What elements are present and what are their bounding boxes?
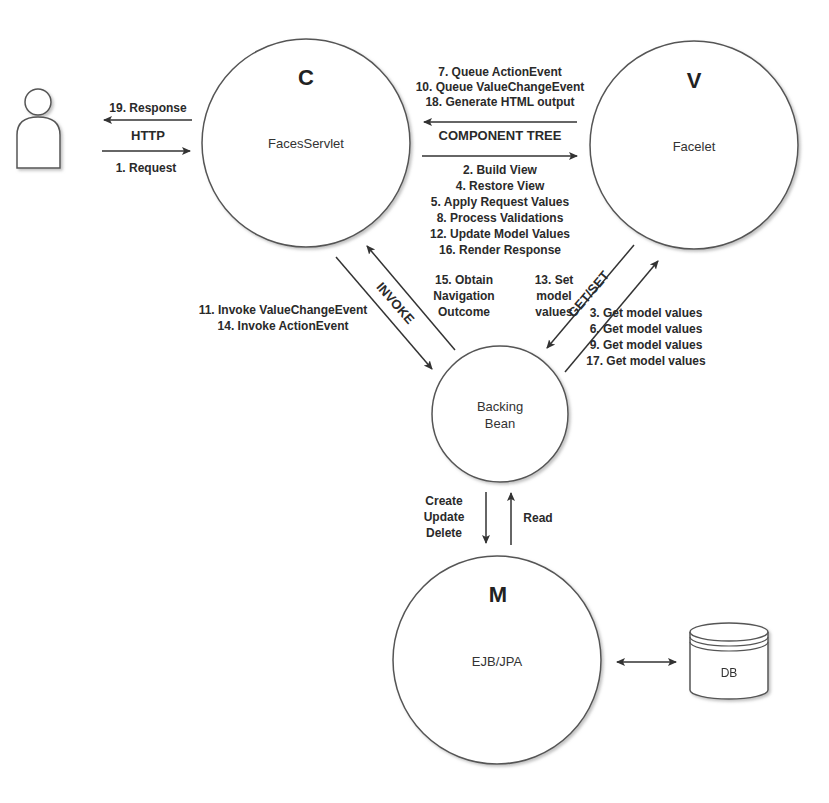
svg-text:13. Set: 13. Set xyxy=(535,273,574,287)
view-label: Facelet xyxy=(673,139,716,154)
controller-label: FacesServlet xyxy=(268,136,344,151)
mvc-diagram: 19. Response HTTP 1. Request C FacesServ… xyxy=(0,0,829,803)
svg-text:15. Obtain: 15. Obtain xyxy=(435,273,493,287)
svg-text:9. Get model values: 9. Get model values xyxy=(590,338,703,352)
controller-node: C FacesServlet xyxy=(202,39,410,247)
invoke-edge: INVOKE 11. Invoke ValueChangeEvent 14. I… xyxy=(199,246,495,369)
svg-text:Outcome: Outcome xyxy=(438,305,490,319)
svg-text:values: values xyxy=(535,305,573,319)
controller-letter: C xyxy=(298,65,314,90)
svg-text:3. Get model values: 3. Get model values xyxy=(590,306,703,320)
model-node: M EJB/JPA xyxy=(393,556,601,764)
bean-model-edge: Create Update Delete Read xyxy=(424,492,553,545)
svg-text:11. Invoke ValueChangeEvent: 11. Invoke ValueChangeEvent xyxy=(199,303,368,317)
backing-bean-node: Backing Bean xyxy=(432,346,568,482)
svg-text:Read: Read xyxy=(523,511,552,525)
get-set-edge: GET/SET 13. Set model values 3. Get mode… xyxy=(535,245,706,372)
http-label: HTTP xyxy=(131,128,165,143)
svg-text:5. Apply Request Values: 5. Apply Request Values xyxy=(431,195,570,209)
model-letter: M xyxy=(489,582,507,607)
svg-text:8. Process Validations: 8. Process Validations xyxy=(437,211,564,225)
svg-text:17. Get model values: 17. Get model values xyxy=(586,354,706,368)
svg-text:12. Update Model Values: 12. Update Model Values xyxy=(430,227,570,241)
database-icon: DB xyxy=(690,623,768,699)
svg-text:model: model xyxy=(536,289,571,303)
component-tree-label: COMPONENT TREE xyxy=(439,128,562,143)
request-label: 1. Request xyxy=(116,161,177,175)
svg-text:2. Build View: 2. Build View xyxy=(463,163,537,177)
svg-text:Create: Create xyxy=(425,494,463,508)
svg-text:Navigation: Navigation xyxy=(433,289,494,303)
component-tree-edge: 7. Queue ActionEvent 10. Queue ValueChan… xyxy=(416,65,585,257)
view-node: V Facelet xyxy=(590,41,798,249)
http-edge: 19. Response HTTP 1. Request xyxy=(102,101,192,175)
response-label: 19. Response xyxy=(109,101,187,115)
svg-text:6. Get model values: 6. Get model values xyxy=(590,322,703,336)
invoke-label: INVOKE xyxy=(373,279,417,327)
view-letter: V xyxy=(687,68,702,93)
svg-text:Update: Update xyxy=(424,510,465,524)
user-icon xyxy=(17,89,60,168)
db-label: DB xyxy=(721,666,738,680)
svg-text:Bean: Bean xyxy=(485,416,515,431)
svg-text:16. Render Response: 16. Render Response xyxy=(439,243,561,257)
svg-text:10. Queue ValueChangeEvent: 10. Queue ValueChangeEvent xyxy=(416,80,585,94)
svg-text:18. Generate HTML output: 18. Generate HTML output xyxy=(425,95,574,109)
svg-text:14. Invoke ActionEvent: 14. Invoke ActionEvent xyxy=(218,319,349,333)
svg-text:Backing: Backing xyxy=(477,399,523,414)
model-label: EJB/JPA xyxy=(472,654,523,669)
svg-text:4. Restore View: 4. Restore View xyxy=(456,179,545,193)
svg-text:Delete: Delete xyxy=(426,526,462,540)
svg-text:7. Queue ActionEvent: 7. Queue ActionEvent xyxy=(438,65,562,79)
